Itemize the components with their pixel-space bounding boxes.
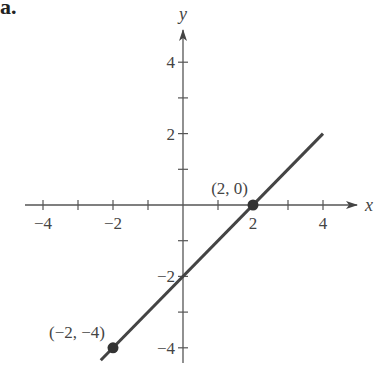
line-graph: a. x y −4−224 42−2−4 (2, 0)(−2, −4) xyxy=(0,0,374,366)
series-line xyxy=(101,134,323,361)
data-line xyxy=(101,134,323,361)
y-tick-label: 2 xyxy=(167,125,176,144)
axes: x y xyxy=(25,4,373,363)
point-label: (2, 0) xyxy=(211,179,248,198)
x-axis-label: x xyxy=(364,195,373,215)
x-tick-label: 2 xyxy=(249,214,258,233)
part-label: a. xyxy=(0,0,17,19)
data-point xyxy=(108,342,119,353)
data-point xyxy=(248,200,259,211)
y-axis-label: y xyxy=(177,4,187,24)
y-tick-label: −4 xyxy=(157,339,176,358)
x-tick-label: −2 xyxy=(104,214,122,233)
x-tick-label: −4 xyxy=(34,214,53,233)
point-label: (−2, −4) xyxy=(49,323,105,342)
x-tick-label: 4 xyxy=(319,214,328,233)
y-tick-label: −2 xyxy=(157,267,175,286)
y-tick-label: 4 xyxy=(167,53,176,72)
x-tick-labels: −4−224 xyxy=(34,214,328,233)
